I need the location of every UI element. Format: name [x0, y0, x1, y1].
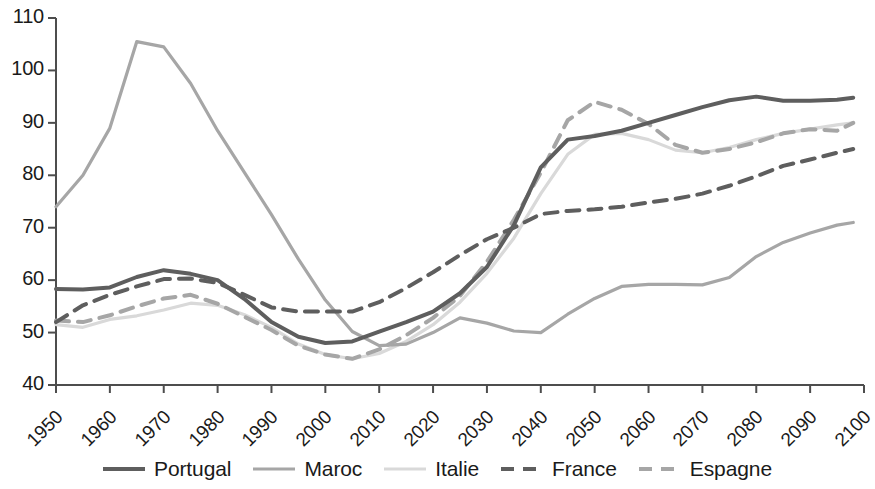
y-tick-label: 110: [0, 5, 44, 28]
y-tick-label: 70: [0, 215, 44, 238]
y-tick-label: 80: [0, 162, 44, 185]
chart-legend: PortugalMarocItalieFranceEspagne: [0, 452, 875, 486]
legend-item-espagne[interactable]: Espagne: [639, 457, 772, 481]
series-line-italie: [56, 123, 853, 359]
legend-item-portugal[interactable]: Portugal: [103, 457, 231, 481]
legend-label: Espagne: [690, 457, 772, 481]
legend-label: Italie: [435, 457, 479, 481]
line-chart: 405060708090100110 195019601970198019902…: [0, 0, 875, 489]
y-tick-label: 100: [0, 57, 44, 80]
y-tick-label: 40: [0, 372, 44, 395]
legend-swatch-icon: [384, 463, 426, 475]
legend-swatch-icon: [253, 463, 295, 475]
y-tick-label: 60: [0, 267, 44, 290]
legend-swatch-icon: [501, 463, 543, 475]
legend-swatch-icon: [639, 463, 681, 475]
legend-label: Maroc: [304, 457, 362, 481]
legend-item-italie[interactable]: Italie: [384, 457, 479, 481]
y-tick-label: 90: [0, 110, 44, 133]
legend-label: France: [552, 457, 617, 481]
series-lines: [56, 42, 853, 359]
legend-item-maroc[interactable]: Maroc: [253, 457, 362, 481]
legend-swatch-icon: [103, 463, 145, 475]
legend-label: Portugal: [154, 457, 231, 481]
y-tick-label: 50: [0, 320, 44, 343]
axes: [48, 18, 864, 393]
legend-item-france[interactable]: France: [501, 457, 617, 481]
